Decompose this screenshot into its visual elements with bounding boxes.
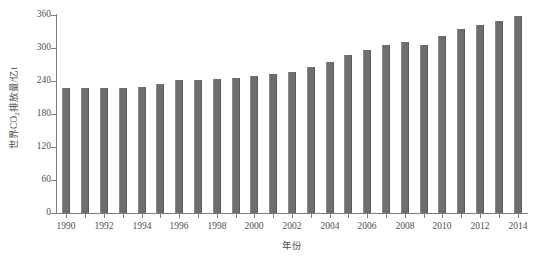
x-tick-mark — [330, 214, 331, 218]
x-tick-label: 1992 — [83, 221, 125, 231]
bar — [382, 45, 390, 213]
x-tick-label: 2010 — [421, 221, 463, 231]
bar — [250, 76, 258, 214]
x-tick-mark — [461, 214, 462, 218]
x-tick-mark — [179, 214, 180, 218]
x-tick-label: 1998 — [196, 221, 238, 231]
x-tick-label: 2004 — [309, 221, 351, 231]
x-tick-mark — [236, 214, 237, 218]
bar — [213, 79, 221, 213]
x-tick-mark — [480, 214, 481, 218]
y-tick-label: 0 — [17, 208, 51, 218]
x-tick-mark — [405, 214, 406, 218]
x-tick-mark — [85, 214, 86, 218]
bar — [420, 45, 428, 213]
y-tick-mark — [51, 15, 56, 16]
y-tick-label: 240 — [17, 76, 51, 86]
bar — [232, 78, 240, 213]
y-tick-mark — [51, 147, 56, 148]
x-tick-label: 2012 — [459, 221, 501, 231]
y-tick-label: 300 — [17, 43, 51, 53]
y-tick-label: 180 — [17, 109, 51, 119]
x-axis-title-text: 年份 — [282, 238, 302, 252]
bar — [81, 88, 89, 213]
bar — [476, 25, 484, 213]
bar — [194, 80, 202, 213]
bar — [288, 72, 296, 213]
x-tick-label: 2008 — [384, 221, 426, 231]
bar — [363, 50, 371, 213]
bar — [269, 74, 277, 213]
x-tick-label: 2002 — [271, 221, 313, 231]
x-tick-label: 1990 — [45, 221, 87, 231]
y-tick-mark — [51, 114, 56, 115]
bar — [457, 29, 465, 213]
bar — [326, 62, 334, 213]
x-tick-mark — [292, 214, 293, 218]
bar — [175, 80, 183, 213]
x-tick-mark — [311, 214, 312, 218]
x-tick-mark — [518, 214, 519, 218]
chart-figure: 世界CO2排放量/亿t 060120180240300360 199019921… — [0, 0, 539, 266]
bar — [344, 55, 352, 213]
y-tick-label: 360 — [17, 10, 51, 20]
x-tick-mark — [66, 214, 67, 218]
x-tick-mark — [198, 214, 199, 218]
x-tick-mark — [442, 214, 443, 218]
x-tick-mark — [217, 214, 218, 218]
x-tick-mark — [160, 214, 161, 218]
x-tick-label: 2014 — [497, 221, 539, 231]
x-tick-mark — [273, 214, 274, 218]
x-axis-title: 年份 — [0, 238, 539, 252]
x-tick-mark — [104, 214, 105, 218]
y-tick-label: 120 — [17, 142, 51, 152]
y-tick-mark — [51, 81, 56, 82]
x-tick-mark — [254, 214, 255, 218]
x-tick-label: 1996 — [158, 221, 200, 231]
y-tick-mark — [51, 48, 56, 49]
x-tick-mark — [142, 214, 143, 218]
x-tick-mark — [123, 214, 124, 218]
x-tick-label: 2006 — [346, 221, 388, 231]
plot-area — [57, 15, 527, 213]
x-tick-mark — [386, 214, 387, 218]
bar — [138, 87, 146, 214]
x-tick-mark — [367, 214, 368, 218]
x-tick-mark — [499, 214, 500, 218]
bar — [62, 88, 70, 213]
bar — [438, 36, 446, 213]
bar — [119, 88, 127, 213]
x-tick-label: 1994 — [121, 221, 163, 231]
bar — [156, 84, 164, 213]
bar — [495, 21, 503, 214]
bar — [514, 16, 522, 213]
bar — [401, 42, 409, 213]
y-tick-mark — [51, 213, 56, 214]
y-tick-mark — [51, 180, 56, 181]
y-tick-label: 60 — [17, 175, 51, 185]
x-tick-label: 2000 — [233, 221, 275, 231]
bar — [307, 67, 315, 213]
x-tick-mark — [424, 214, 425, 218]
bar — [100, 88, 108, 213]
x-tick-mark — [348, 214, 349, 218]
